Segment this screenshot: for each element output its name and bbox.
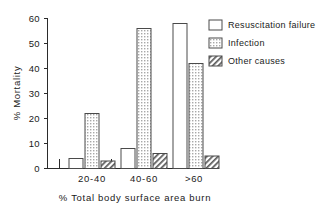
legend-item-infection[interactable]: Infection [209, 38, 265, 48]
legend-item-resuscitation-failure[interactable]: Resuscitation failure [209, 20, 315, 30]
bar-resuscitation-failure[interactable] [121, 149, 135, 169]
legend: Resuscitation failure Infection Other ca… [209, 20, 315, 66]
figure-container: 60 50 40 30 20 10 0 % Mortality [0, 0, 330, 209]
y-tick-label: 40 [29, 63, 40, 74]
legend-swatch-open [209, 20, 222, 30]
y-axis-title: % Mortality [11, 66, 22, 121]
bar-infection[interactable] [85, 114, 99, 169]
bar-other-causes[interactable] [205, 156, 219, 169]
y-tick-label: 0 [34, 163, 40, 174]
bar-resuscitation-failure[interactable] [173, 24, 187, 169]
y-tick-label: 30 [29, 88, 40, 99]
bar-infection[interactable] [189, 64, 203, 169]
bar-resuscitation-failure[interactable] [69, 159, 83, 169]
x-axis-title: % Total body surface area burn [59, 192, 211, 203]
y-tick-label: 10 [29, 138, 40, 149]
bar-other-causes[interactable] [153, 154, 167, 169]
legend-label: Other causes [228, 56, 285, 66]
y-tick-marks [44, 19, 48, 169]
legend-label: Resuscitation failure [228, 20, 315, 30]
bar-group-20-40 [69, 114, 115, 169]
x-tick-label: 20-40 [78, 173, 106, 184]
x-tick-labels: 20-40 40-60 >60 [78, 173, 203, 184]
plot-area: 60 50 40 30 20 10 0 % Mortality [11, 13, 219, 203]
legend-swatch-dotted [209, 38, 222, 48]
legend-label: Infection [228, 38, 265, 48]
x-tick-label: 40-60 [130, 173, 158, 184]
y-tick-label: 20 [29, 113, 40, 124]
legend-swatch-hatched [209, 56, 222, 66]
bar-group-40-60 [121, 29, 167, 169]
bar-infection[interactable] [137, 29, 151, 169]
x-tick-label: >60 [185, 173, 203, 184]
y-tick-label: 50 [29, 38, 40, 49]
legend-item-other-causes[interactable]: Other causes [209, 56, 285, 66]
y-tick-labels: 60 50 40 30 20 10 0 [29, 13, 40, 174]
y-tick-label: 60 [29, 13, 40, 24]
bar-other-causes[interactable] [101, 161, 115, 169]
mortality-bar-chart: 60 50 40 30 20 10 0 % Mortality [0, 0, 330, 209]
